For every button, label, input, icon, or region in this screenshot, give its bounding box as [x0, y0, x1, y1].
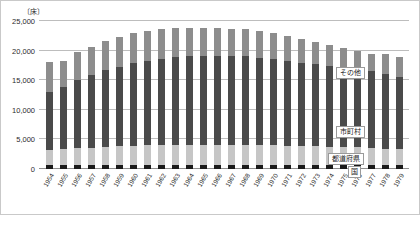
bar-segment-national [340, 165, 347, 169]
x-axis-tick: 1954 [42, 171, 56, 213]
bar-stack [158, 29, 165, 169]
bar-segment-municipality [60, 87, 67, 150]
bar-segment-prefecture [312, 146, 319, 165]
bar-segment-municipality [228, 56, 235, 145]
bar-segment-national [158, 165, 165, 169]
bar-segment-prefecture [88, 148, 95, 165]
bar-segment-municipality [74, 80, 81, 148]
bar-segment-municipality [88, 75, 95, 148]
bar-column [140, 21, 154, 169]
x-axis-tick-label: 1962 [154, 172, 167, 188]
bar-segment-other [200, 28, 207, 56]
bar-stack [214, 28, 221, 169]
x-axis-tick: 1978 [378, 171, 392, 213]
bar-segment-prefecture [172, 145, 179, 165]
bar-column [294, 21, 308, 169]
bar-segment-other [88, 47, 95, 75]
x-axis-tick: 1979 [392, 171, 406, 213]
bar-stack [46, 62, 53, 169]
bar-segment-prefecture [186, 145, 193, 165]
bar-segment-municipality [312, 64, 319, 146]
x-axis-tick-label: 1956 [70, 172, 83, 188]
x-axis-tick: 1974 [322, 171, 336, 213]
x-axis-tick-label: 1968 [238, 172, 251, 188]
bar-segment-prefecture [144, 145, 151, 165]
bar-stack [102, 41, 109, 169]
x-axis-tick: 1955 [56, 171, 70, 213]
bar-column [112, 21, 126, 169]
x-axis-tick: 1967 [224, 171, 238, 213]
x-axis-tick-label: 1961 [140, 172, 153, 188]
bar-segment-other [340, 48, 347, 68]
bar-column [308, 21, 322, 169]
x-axis-tick: 1972 [294, 171, 308, 213]
bar-segment-prefecture [102, 147, 109, 165]
bar-segment-municipality [158, 59, 165, 145]
bar-stack [298, 39, 305, 169]
bar-segment-municipality [116, 67, 123, 146]
bar-segment-other [242, 29, 249, 56]
bar-segment-national [242, 165, 249, 169]
x-axis-tick: 1966 [210, 171, 224, 213]
x-axis-tick-label: 1978 [378, 172, 391, 188]
x-axis-tick: 1959 [112, 171, 126, 213]
bar-segment-prefecture [158, 145, 165, 165]
bar-column [182, 21, 196, 169]
bar-column [378, 21, 392, 169]
bar-column [280, 21, 294, 169]
bar-segment-national [102, 165, 109, 169]
bar-segment-other [396, 57, 403, 77]
y-axis-tick-label: 0 [1, 165, 35, 174]
bar-segment-national [368, 165, 375, 169]
y-axis-tick-label: 10,000 [1, 105, 35, 114]
bar-segment-prefecture [382, 149, 389, 166]
x-axis-tick: 1973 [308, 171, 322, 213]
bar-segment-other [172, 28, 179, 57]
bar-series-group [39, 21, 409, 169]
bar-segment-national [326, 165, 333, 169]
bar-column [392, 21, 406, 169]
bar-segment-national [186, 165, 193, 169]
bar-stack [60, 61, 67, 169]
bar-segment-other [214, 28, 221, 56]
y-axis-tick-label: 20,000 [1, 46, 35, 55]
bar-column [336, 21, 350, 169]
bar-segment-national [382, 165, 389, 169]
bar-segment-national [214, 165, 221, 169]
bar-segment-municipality [270, 59, 277, 145]
bar-segment-prefecture [200, 145, 207, 165]
bar-segment-national [270, 165, 277, 169]
bar-segment-municipality [130, 63, 137, 145]
bar-stack [340, 48, 347, 169]
x-axis-tick-label: 1963 [168, 172, 181, 188]
y-axis-tick-label: 5,000 [1, 135, 35, 144]
bar-segment-other [102, 41, 109, 70]
x-axis-tick: 1956 [70, 171, 84, 213]
bar-segment-other [144, 31, 151, 61]
bar-segment-national [88, 165, 95, 169]
x-axis-tick-label: 1958 [98, 172, 111, 188]
bar-segment-municipality [144, 61, 151, 146]
bar-stack [242, 29, 249, 169]
bar-column [98, 21, 112, 169]
bar-segment-municipality [46, 92, 53, 150]
bar-segment-prefecture [284, 146, 291, 165]
x-axis-tick: 1961 [140, 171, 154, 213]
bar-segment-prefecture [46, 150, 53, 165]
bar-segment-national [200, 165, 207, 169]
bar-segment-municipality [382, 74, 389, 149]
bar-segment-municipality [172, 57, 179, 145]
bar-segment-municipality [186, 56, 193, 144]
bar-segment-other [158, 29, 165, 58]
bar-segment-national [144, 165, 151, 169]
x-axis-tick-label: 1979 [392, 172, 405, 188]
x-axis-tick-label: 1954 [42, 172, 55, 188]
bar-segment-other [270, 33, 277, 59]
bar-segment-municipality [396, 77, 403, 150]
bar-stack [368, 54, 375, 169]
bar-segment-other [46, 62, 53, 91]
bar-column [154, 21, 168, 169]
bar-segment-prefecture [256, 145, 263, 165]
x-axis-tick-label: 1969 [252, 172, 265, 188]
bar-segment-national [130, 165, 137, 169]
